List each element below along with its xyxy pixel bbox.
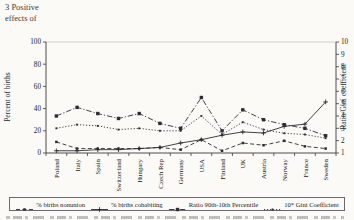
- svg-text:Hungary: Hungary: [136, 158, 143, 182]
- legend-item-gini: 10* Gini Coefficient: [263, 200, 338, 209]
- legend-item-nonunion: % births nonunion: [15, 200, 85, 209]
- svg-text:Germany: Germany: [177, 158, 184, 184]
- svg-text:80: 80: [34, 61, 42, 69]
- svg-text:40: 40: [34, 105, 42, 113]
- svg-text:Finland: Finland: [219, 158, 226, 179]
- svg-text:100: 100: [30, 38, 41, 46]
- chart-area: 02040608010012345678910PolandItalySpainS…: [0, 0, 354, 220]
- svg-text:UK: UK: [239, 159, 246, 169]
- svg-text:Switzerland: Switzerland: [115, 158, 122, 191]
- svg-text:Austria: Austria: [260, 159, 267, 179]
- svg-text:Spain: Spain: [94, 158, 101, 174]
- svg-text:Czech Rep: Czech Rep: [157, 158, 164, 188]
- legend-item-ratio: Ratio 90th-10th Percentile: [168, 200, 259, 209]
- right-axis-title: Ratio/Gini coefficient: [339, 37, 349, 157]
- svg-text:Sweden: Sweden: [322, 158, 329, 180]
- legend-sample-dashed-line-icon: [15, 200, 34, 209]
- svg-text:Poland: Poland: [53, 158, 60, 177]
- legend-item-cohabiting: % births cohabiting: [90, 200, 163, 209]
- legend-label-ratio: Ratio 90th-10th Percentile: [189, 201, 259, 208]
- legend-label-gini: 10* Gini Coefficient: [284, 201, 338, 208]
- cropped-page-text: [6, 216, 344, 219]
- svg-text:USA: USA: [198, 159, 205, 173]
- legend-sample-dashdot-line-icon: [168, 200, 187, 209]
- line-chart-canvas: 02040608010012345678910PolandItalySpainS…: [0, 0, 354, 220]
- left-axis-title: Percent of births: [3, 37, 13, 157]
- svg-text:0: 0: [37, 149, 41, 157]
- legend-label-nonunion: % births nonunion: [36, 201, 85, 208]
- svg-text:Norway: Norway: [281, 158, 288, 180]
- svg-text:20: 20: [34, 127, 42, 135]
- legend-sample-solid-line-icon: [90, 200, 109, 209]
- chart-legend: % births nonunion % births cohabiting Ra…: [9, 197, 345, 211]
- legend-sample-dotted-line-icon: [263, 200, 282, 209]
- svg-text:France: France: [302, 159, 309, 178]
- svg-text:Italy: Italy: [74, 158, 81, 171]
- legend-label-cohabiting: % births cohabiting: [111, 201, 163, 208]
- svg-text:60: 60: [34, 83, 42, 91]
